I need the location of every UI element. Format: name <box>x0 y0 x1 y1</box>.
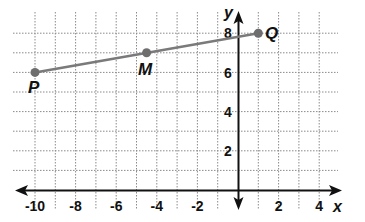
point-q <box>254 29 263 38</box>
coordinate-plane: -10 -8 -6 -4 -2 2 4 x 2 4 6 8 y P M Q <box>0 0 365 222</box>
y-tick-label: 2 <box>224 143 232 159</box>
grid <box>13 12 338 210</box>
point-q-label: Q <box>265 24 278 43</box>
x-tick-label: -4 <box>151 198 164 214</box>
x-tick-label: -8 <box>69 198 82 214</box>
x-tick-labels: -10 -8 -6 -4 -2 2 4 <box>25 198 323 214</box>
point-m-label: M <box>138 60 153 79</box>
x-tick-label: -2 <box>191 198 204 214</box>
x-tick-label: 4 <box>315 198 323 214</box>
y-axis-label: y <box>223 4 234 21</box>
y-tick-labels: 2 4 6 8 <box>224 25 232 159</box>
point-p <box>31 68 40 77</box>
y-tick-label: 6 <box>224 65 232 81</box>
x-tick-label: -6 <box>110 198 123 214</box>
x-tick-label: -10 <box>25 198 45 214</box>
point-p-label: P <box>28 78 40 97</box>
x-axis-label: x <box>332 198 343 215</box>
x-tick-label: 2 <box>275 198 283 214</box>
point-m <box>142 48 151 57</box>
y-tick-label: 4 <box>224 104 232 120</box>
y-axis <box>234 11 244 210</box>
x-axis <box>15 185 342 196</box>
